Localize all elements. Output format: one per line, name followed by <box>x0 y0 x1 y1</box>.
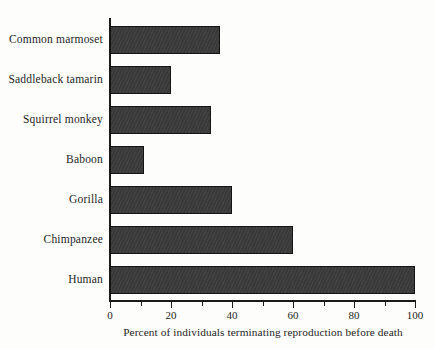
x-tick-100 <box>415 301 416 308</box>
x-tick-label-60: 60 <box>288 309 299 321</box>
x-axis-title: Percent of individuals terminating repro… <box>110 326 416 338</box>
x-tick-50 <box>263 301 264 306</box>
x-tick-40 <box>232 301 233 308</box>
x-tick-70 <box>324 301 325 306</box>
bar-gorilla <box>110 186 232 214</box>
x-tick-80 <box>354 301 355 308</box>
bar-fill <box>110 266 415 294</box>
bar-saddleback-tamarin <box>110 66 171 94</box>
x-tick-90 <box>385 301 386 306</box>
bar-fill <box>110 106 211 134</box>
category-label-squirrel-monkey: Squirrel monkey <box>0 113 103 125</box>
bar-fill <box>110 66 171 94</box>
x-tick-label-20: 20 <box>166 309 177 321</box>
bar-fill <box>110 186 232 214</box>
bar-chimpanzee <box>110 226 293 254</box>
x-tick-10 <box>141 301 142 306</box>
category-label-baboon: Baboon <box>0 153 103 165</box>
category-label-gorilla: Gorilla <box>0 193 103 205</box>
bar-fill <box>110 146 144 174</box>
x-tick-label-100: 100 <box>407 309 424 321</box>
bar-baboon <box>110 146 144 174</box>
x-tick-60 <box>293 301 294 308</box>
x-tick-label-0: 0 <box>107 309 113 321</box>
x-tick-20 <box>171 301 172 308</box>
category-label-human: Human <box>0 273 103 285</box>
x-tick-30 <box>202 301 203 306</box>
bar-human <box>110 266 415 294</box>
x-tick-label-40: 40 <box>227 309 238 321</box>
bar-fill <box>110 226 293 254</box>
x-tick-0 <box>110 301 111 308</box>
bar-chart: Common marmoset Saddleback tamarin Squir… <box>0 0 435 349</box>
bar-fill <box>110 26 220 54</box>
category-label-chimpanzee: Chimpanzee <box>0 233 103 245</box>
category-label-common-marmoset: Common marmoset <box>0 33 103 45</box>
bar-squirrel-monkey <box>110 106 211 134</box>
category-label-saddleback-tamarin: Saddleback tamarin <box>0 73 103 85</box>
bar-common-marmoset <box>110 26 220 54</box>
x-tick-label-80: 80 <box>349 309 360 321</box>
